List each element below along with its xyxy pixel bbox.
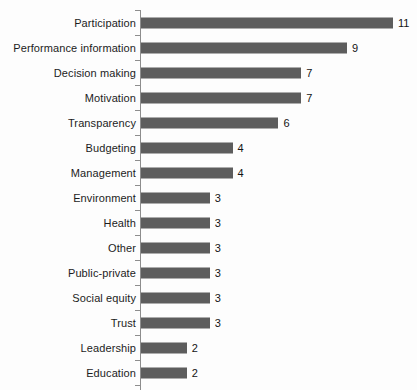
bar	[141, 217, 210, 228]
category-label: Public-private	[68, 267, 136, 279]
bar-row: Performance information9	[0, 35, 417, 60]
bar-value-label: 3	[215, 292, 221, 304]
axis-tick	[135, 335, 140, 336]
axis-tick	[135, 360, 140, 361]
axis-tick	[135, 285, 140, 286]
bar-value-label: 3	[215, 192, 221, 204]
axis-tick	[135, 110, 140, 111]
bar-row: Education2	[0, 360, 417, 385]
category-label: Performance information	[13, 42, 136, 54]
bar-row: Management4	[0, 160, 417, 185]
bar-rows: Participation11Performance information9D…	[0, 0, 417, 390]
bar-value-label: 9	[352, 42, 358, 54]
category-label: Leadership	[81, 342, 136, 354]
bar	[141, 342, 187, 353]
bar-value-label: 7	[306, 67, 312, 79]
axis-tick	[135, 235, 140, 236]
axis-tick	[135, 160, 140, 161]
category-label: Motivation	[85, 92, 136, 104]
category-label: Decision making	[54, 67, 136, 79]
bar	[141, 367, 187, 378]
axis-tick	[135, 210, 140, 211]
category-label: Transparency	[68, 117, 136, 129]
bar	[141, 192, 210, 203]
bar-value-label: 6	[283, 117, 289, 129]
bar-row: Other3	[0, 235, 417, 260]
category-label: Education	[86, 367, 136, 379]
category-label: Management	[71, 167, 136, 179]
category-label: Environment	[73, 192, 136, 204]
axis-tick	[135, 385, 140, 386]
bar-row: Public-private3	[0, 260, 417, 285]
bar	[141, 292, 210, 303]
bar	[141, 42, 347, 53]
axis-tick	[135, 310, 140, 311]
axis-tick	[135, 85, 140, 86]
bar	[141, 167, 233, 178]
axis-tick	[135, 135, 140, 136]
bar	[141, 142, 233, 153]
bar	[141, 317, 210, 328]
bar	[141, 242, 210, 253]
category-label: Trust	[111, 317, 136, 329]
bar-value-label: 4	[238, 167, 244, 179]
category-label: Other	[108, 242, 136, 254]
bar	[141, 67, 301, 78]
axis-tick	[135, 185, 140, 186]
bar-row: Decision making7	[0, 60, 417, 85]
bar-value-label: 3	[215, 317, 221, 329]
bar-value-label: 3	[215, 217, 221, 229]
bar-value-label: 3	[215, 242, 221, 254]
axis-tick	[135, 260, 140, 261]
bar-row: Budgeting4	[0, 135, 417, 160]
bar	[141, 117, 278, 128]
bar-row: Environment3	[0, 185, 417, 210]
bar-value-label: 4	[238, 142, 244, 154]
bar	[141, 267, 210, 278]
axis-tick	[135, 35, 140, 36]
bar	[141, 17, 393, 28]
category-label: Health	[104, 217, 136, 229]
category-label: Social equity	[72, 292, 136, 304]
axis-tick	[135, 10, 140, 11]
bar-row: Health3	[0, 210, 417, 235]
bar-value-label: 7	[306, 92, 312, 104]
category-label: Participation	[74, 17, 136, 29]
bar-chart: Participation11Performance information9D…	[0, 0, 417, 390]
bar-value-label: 3	[215, 267, 221, 279]
bar-row: Trust3	[0, 310, 417, 335]
category-label: Budgeting	[86, 142, 136, 154]
bar-value-label: 2	[192, 342, 198, 354]
bar-row: Motivation7	[0, 85, 417, 110]
bar-value-label: 11	[398, 17, 409, 29]
bar	[141, 92, 301, 103]
bar-row: Leadership2	[0, 335, 417, 360]
axis-tick	[135, 60, 140, 61]
bar-row: Social equity3	[0, 285, 417, 310]
bar-row: Accountability2	[0, 385, 417, 390]
bar-value-label: 2	[192, 367, 198, 379]
bar-row: Participation11	[0, 10, 417, 35]
bar-row: Transparency6	[0, 110, 417, 135]
